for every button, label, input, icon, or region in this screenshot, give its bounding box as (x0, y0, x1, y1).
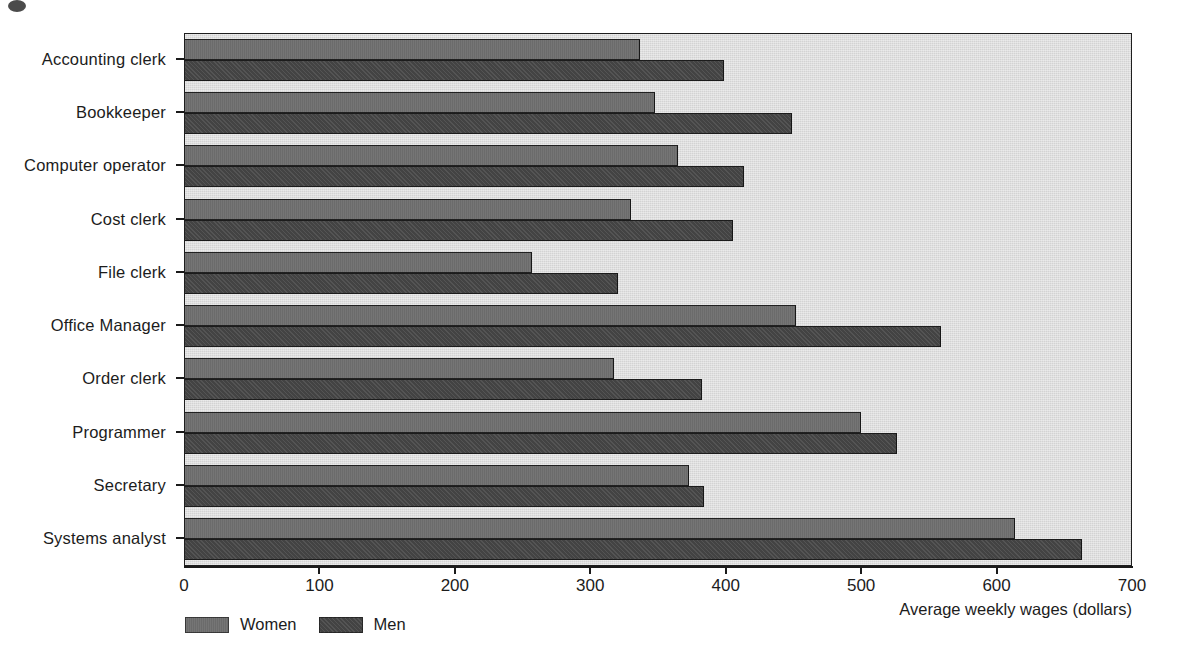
bar-men-programmer (185, 433, 897, 454)
bar-women-file-clerk (185, 252, 532, 273)
x-tick-400 (725, 566, 727, 574)
x-tick-label-500: 500 (847, 576, 875, 596)
bar-women-cost-clerk (185, 199, 631, 220)
bar-women-bookkeeper (185, 92, 655, 113)
x-tick-label-400: 400 (712, 576, 740, 596)
category-label-computer-operator: Computer operator (24, 156, 166, 175)
category-label-bookkeeper: Bookkeeper (76, 102, 166, 121)
bar-women-office-manager (185, 305, 796, 326)
bar-women-order-clerk (185, 358, 614, 379)
category-label-programmer: Programmer (72, 422, 166, 441)
bar-men-cost-clerk (185, 220, 733, 241)
legend-swatch-men (319, 617, 363, 633)
bar-women-programmer (185, 412, 861, 433)
legend-label-men: Men (374, 615, 406, 634)
x-tick-label-200: 200 (441, 576, 469, 596)
bar-men-order-clerk (185, 379, 702, 400)
x-tick-300 (589, 566, 591, 574)
bar-men-accounting-clerk (185, 60, 724, 81)
x-axis-line (184, 566, 1133, 568)
x-tick-label-0: 0 (179, 576, 188, 596)
legend-item-women: Women (185, 615, 297, 634)
legend-label-women: Women (240, 615, 297, 634)
bar-women-systems-analyst (185, 518, 1015, 539)
bar-women-computer-operator (185, 145, 678, 166)
category-label-systems-analyst: Systems analyst (43, 529, 166, 548)
x-tick-label-600: 600 (982, 576, 1010, 596)
category-label-secretary: Secretary (94, 476, 166, 495)
bar-women-accounting-clerk (185, 39, 640, 60)
figure-bullet-mark (8, 0, 26, 12)
bar-men-bookkeeper (185, 113, 792, 134)
x-axis-title: Average weekly wages (dollars) (899, 600, 1132, 619)
x-tick-200 (454, 566, 456, 574)
bar-men-office-manager (185, 326, 941, 347)
x-tick-600 (996, 566, 998, 574)
x-tick-label-700: 700 (1118, 576, 1146, 596)
chart-legend: WomenMen (185, 615, 406, 634)
category-label-office-manager: Office Manager (51, 316, 166, 335)
bar-men-computer-operator (185, 166, 744, 187)
x-tick-label-300: 300 (576, 576, 604, 596)
plot-area (184, 33, 1132, 566)
category-label-accounting-clerk: Accounting clerk (42, 49, 166, 68)
legend-swatch-women (185, 617, 229, 633)
x-tick-100 (318, 566, 320, 574)
bar-women-secretary (185, 465, 689, 486)
legend-item-men: Men (319, 615, 406, 634)
category-label-cost-clerk: Cost clerk (91, 209, 166, 228)
x-tick-500 (860, 566, 862, 574)
bar-men-secretary (185, 486, 704, 507)
category-label-file-clerk: File clerk (98, 262, 166, 281)
category-axis: Accounting clerkBookkeeperComputer opera… (0, 33, 176, 566)
category-label-order-clerk: Order clerk (82, 369, 166, 388)
bar-chart-figure: Accounting clerkBookkeeperComputer opera… (0, 0, 1179, 655)
bar-men-file-clerk (185, 273, 618, 294)
x-tick-label-100: 100 (305, 576, 333, 596)
bar-men-systems-analyst (185, 539, 1082, 560)
